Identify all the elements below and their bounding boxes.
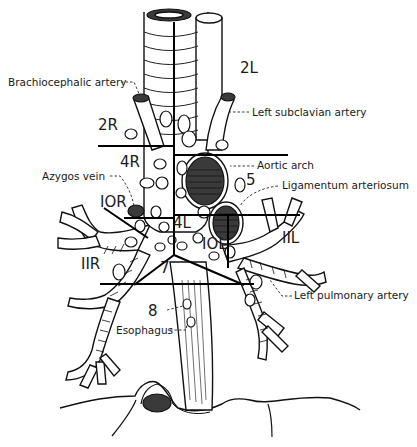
station-11L: IIL [282, 229, 300, 247]
station-4R: 4R [120, 153, 140, 171]
station-11R: IIR [81, 255, 100, 273]
station-5: 5 [246, 171, 256, 189]
label-aortic-arch: Aortic arch [257, 159, 314, 171]
label-left-subclavian-artery: Left subclavian artery [252, 106, 366, 118]
station-8: 8 [148, 302, 158, 320]
label-azygos-vein: Azygos vein [42, 170, 105, 182]
label-left-pulmonary-artery: Left pulmonary artery [294, 289, 409, 301]
station-10L: IOL [202, 235, 227, 253]
station-7: 7 [160, 259, 170, 277]
label-esophagus: Esophagus [116, 324, 173, 336]
aortic-arch [182, 153, 228, 209]
label-ligamentum-arteriosum: Ligamentum arteriosum [282, 179, 409, 191]
station-10R: IOR [100, 193, 127, 211]
station-4L: 4L [173, 214, 192, 232]
azygos-vein [128, 205, 144, 217]
station-2L: 2L [240, 59, 259, 77]
station-2R: 2R [98, 116, 118, 134]
right-bronchial-tree [58, 205, 150, 388]
label-brachiocephalic-artery: Brachiocephalic artery [8, 76, 127, 88]
mediastinal-lymph-node-diagram: 2R 2L 4R 4L 5 IOR IOL IIR IIL 7 8 Brachi… [0, 0, 417, 447]
